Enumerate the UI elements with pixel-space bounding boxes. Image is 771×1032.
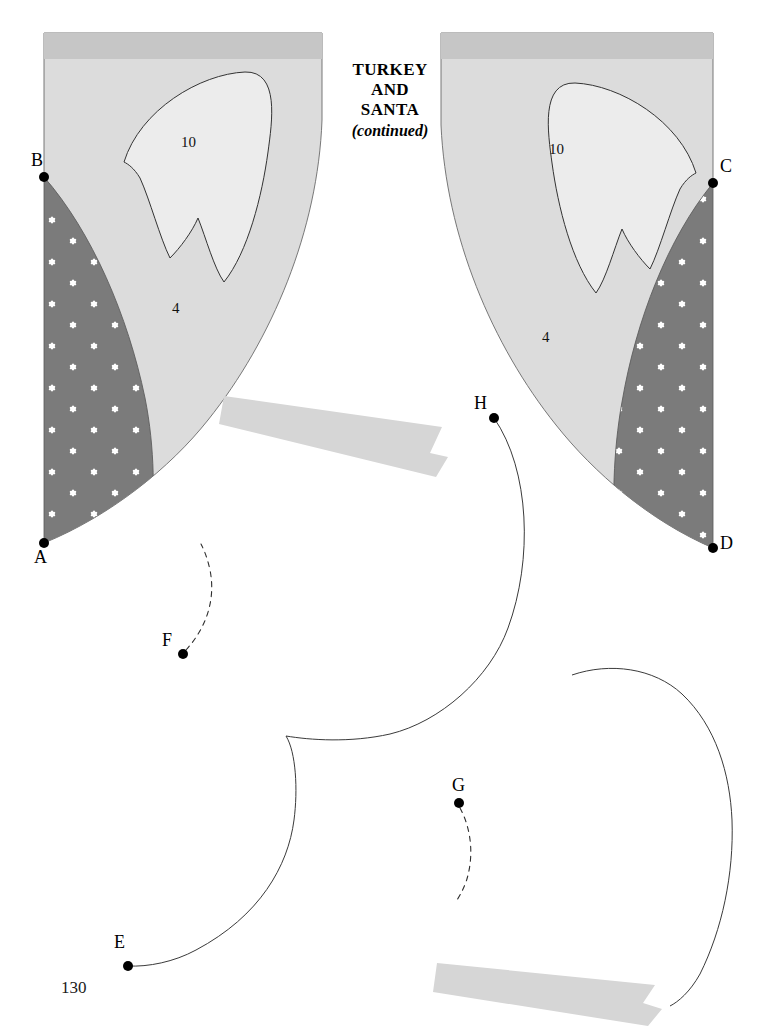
- point-label-d: D: [720, 533, 733, 554]
- right-piece-number-4: 4: [542, 329, 550, 346]
- point-label-h: H: [474, 393, 487, 414]
- left-pattern-piece: [40, 33, 330, 543]
- left-piece-number-4: 4: [172, 300, 180, 317]
- dashed-curve-f: [186, 544, 212, 650]
- point-label-a: A: [34, 547, 47, 568]
- right-piece-number-10: 10: [549, 141, 564, 158]
- marker-dot-c: [708, 178, 718, 188]
- dashed-curve-g: [457, 808, 471, 900]
- marker-dot-d: [708, 543, 718, 553]
- left-piece-top-band: [40, 33, 330, 59]
- marker-dot-g: [454, 798, 464, 808]
- pattern-page: TURKEY AND SANTA (continued) 10 4 10 4 B…: [0, 0, 771, 1032]
- pattern-illustration: [0, 0, 771, 1032]
- marker-dot-e: [123, 961, 133, 971]
- marker-dot-b: [39, 172, 49, 182]
- left-piece-number-10: 10: [181, 134, 196, 151]
- page-number: 130: [61, 978, 87, 998]
- point-label-b: B: [31, 150, 43, 171]
- outline-curve-h-to-e: [128, 418, 524, 966]
- dashed-guide-curves: [186, 544, 471, 900]
- point-label-f: F: [162, 630, 172, 651]
- lower-ribbon-band: [433, 963, 662, 1026]
- point-label-e: E: [114, 932, 125, 953]
- point-label-c: C: [720, 156, 732, 177]
- upper-ribbon-band: [219, 396, 448, 477]
- right-pattern-piece: [437, 33, 727, 548]
- right-piece-top-band: [437, 33, 727, 59]
- marker-dot-f: [178, 649, 188, 659]
- point-label-g: G: [452, 775, 465, 796]
- marker-dot-h: [489, 413, 499, 423]
- outline-curve-right-wave: [572, 668, 732, 1006]
